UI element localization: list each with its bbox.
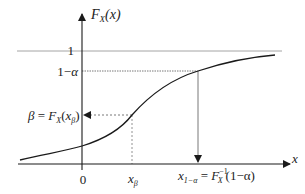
x-beta-label: xβ	[127, 171, 138, 188]
origin-label: 0	[80, 172, 87, 187]
x-alpha-label: x1−α = F−1X(1−α)	[177, 167, 255, 185]
x-axis-label: x	[291, 151, 298, 166]
cdf-diagram: FX(x) 1 1−α β = FX(xβ) 0 xβ x1−α = F−1X(…	[0, 0, 305, 194]
y-axis-label: FX(x)	[90, 7, 121, 24]
level-alpha-label: 1−α	[57, 64, 79, 79]
level-one-label: 1	[68, 43, 75, 58]
beta-label: β = FX(xβ)	[27, 108, 80, 125]
